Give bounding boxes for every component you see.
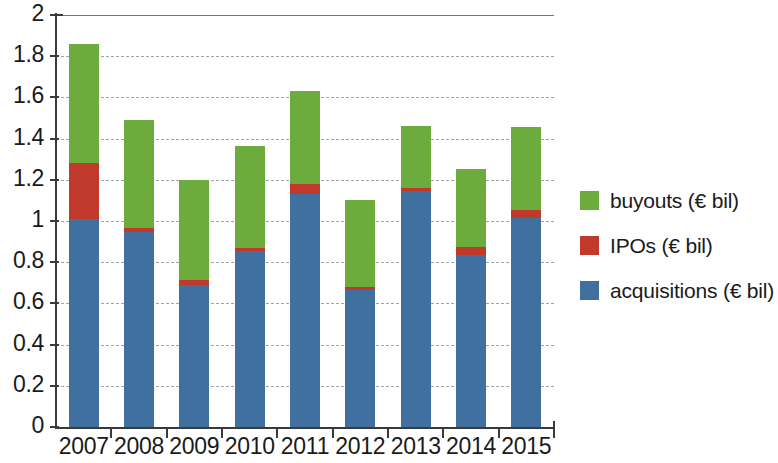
bar-segment-buyouts <box>179 180 209 280</box>
bar-segment-acquisitions <box>69 219 99 427</box>
chart-legend: buyouts (€ bil)IPOs (€ bil)acquisitions … <box>580 178 776 313</box>
bar-stack <box>290 91 320 427</box>
y-axis-tick-label: 1.4 <box>0 124 44 151</box>
bar-segment-acquisitions <box>235 251 265 427</box>
stacked-bar-chart: 00.20.40.60.811.21.41.61.82 200720082009… <box>0 0 778 463</box>
y-axis-tick-label: 0.4 <box>0 330 44 357</box>
bar-segment-ipos <box>290 184 320 194</box>
bar-segment-buyouts <box>456 169 486 247</box>
bar-segment-buyouts <box>401 126 431 188</box>
green-swatch <box>580 191 599 210</box>
y-axis-tick <box>50 179 59 181</box>
x-axis-tick-label: 2008 <box>111 433 166 460</box>
x-axis-tick-label: 2010 <box>222 433 277 460</box>
y-axis-tick-label: 0.2 <box>0 371 44 398</box>
y-axis-tick <box>50 14 59 16</box>
bar-segment-acquisitions <box>401 191 431 427</box>
bar-segment-buyouts <box>235 146 265 248</box>
bar-segment-buyouts <box>69 44 99 163</box>
y-axis-tick <box>50 426 59 428</box>
bar-segment-acquisitions <box>179 285 209 427</box>
gridline <box>56 56 554 57</box>
bar-segment-acquisitions <box>290 194 320 427</box>
bar-stack <box>456 169 486 428</box>
red-swatch <box>580 236 599 255</box>
x-axis-line <box>55 427 555 429</box>
y-axis-tick <box>50 385 59 387</box>
y-axis-tick-label: 1.8 <box>0 41 44 68</box>
bar-stack <box>345 200 375 427</box>
y-axis-tick <box>50 261 59 263</box>
legend-item-label: IPOs (€ bil) <box>610 234 713 258</box>
legend-item[interactable]: IPOs (€ bil) <box>580 223 776 268</box>
y-axis-tick-label: 2 <box>0 0 44 27</box>
x-axis-tick-label: 2013 <box>388 433 443 460</box>
x-axis-tick-label: 2012 <box>333 433 388 460</box>
y-axis-tick-label: 0.8 <box>0 247 44 274</box>
legend-item-label: acquisitions (€ bil) <box>610 279 774 303</box>
plot-area <box>56 15 554 427</box>
y-axis-tick-label: 0.6 <box>0 288 44 315</box>
x-axis-tick-label: 2009 <box>167 433 222 460</box>
bar-segment-buyouts <box>290 91 320 184</box>
bar-segment-buyouts <box>511 127 541 209</box>
bar-stack <box>179 180 209 427</box>
bar-segment-buyouts <box>345 200 375 287</box>
y-axis-tick-label: 0 <box>0 412 44 439</box>
x-axis-tick-label: 2014 <box>443 433 498 460</box>
x-axis-tick-label: 2011 <box>277 433 332 460</box>
bar-segment-ipos <box>456 247 486 255</box>
y-axis-tick <box>50 344 59 346</box>
y-axis-tick-label: 1 <box>0 206 44 233</box>
bar-segment-acquisitions <box>511 218 541 427</box>
y-axis-tick <box>50 55 59 57</box>
x-axis-tick-label: 2007 <box>56 433 111 460</box>
bar-stack <box>401 126 431 427</box>
y-axis-tick-label: 1.6 <box>0 82 44 109</box>
x-axis-tick-label: 2015 <box>499 433 554 460</box>
y-axis-tick <box>50 138 59 140</box>
legend-item[interactable]: acquisitions (€ bil) <box>580 268 776 313</box>
bar-stack <box>69 44 99 427</box>
y-axis-tick <box>50 96 59 98</box>
bar-segment-ipos <box>511 210 541 218</box>
legend-item-label: buyouts (€ bil) <box>610 189 739 213</box>
y-axis-tick <box>50 302 59 304</box>
bar-stack <box>235 146 265 427</box>
bar-segment-buyouts <box>124 120 154 228</box>
bar-stack <box>511 127 541 427</box>
blue-swatch <box>580 281 599 300</box>
gridline <box>56 15 554 16</box>
bar-segment-acquisitions <box>124 232 154 427</box>
x-axis-right-cap <box>553 421 555 428</box>
bar-segment-ipos <box>69 163 99 219</box>
bar-stack <box>124 120 154 427</box>
y-axis-tick-label: 1.2 <box>0 165 44 192</box>
legend-item[interactable]: buyouts (€ bil) <box>580 178 776 223</box>
y-axis-tick <box>50 220 59 222</box>
bar-segment-acquisitions <box>345 290 375 427</box>
bar-segment-acquisitions <box>456 255 486 427</box>
